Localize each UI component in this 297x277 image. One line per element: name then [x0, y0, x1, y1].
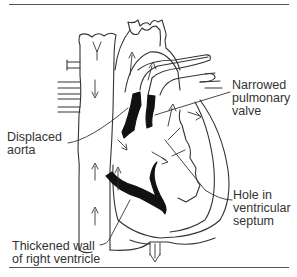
leader-aorta — [68, 108, 128, 143]
vena-cava — [58, 33, 116, 252]
aorta-wall-left — [122, 92, 141, 138]
leader-hole — [165, 140, 232, 200]
leader-pulmonary — [155, 92, 230, 115]
label-thickened-wall-right-ventricle: Thickened wall of right ventricle — [12, 240, 100, 266]
label-displaced-aorta: Displaced aorta — [7, 131, 62, 157]
pulmonary-valve-narrowed — [146, 95, 155, 128]
dark-structures — [106, 92, 166, 214]
label-hole-in-ventricular-septum: Hole in ventricular septum — [233, 189, 291, 228]
label-narrowed-pulmonary-valve: Narrowed pulmonary valve — [232, 79, 290, 118]
